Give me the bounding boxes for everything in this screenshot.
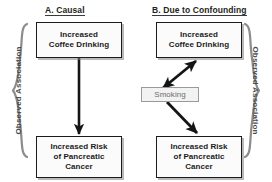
right-observed-association-label: Observed Association [251,36,260,146]
node-b-increased-risk-pancreatic-cancer: Increased Risk of Pancreatic Cancer [156,136,242,178]
node-label: Smoking [154,90,185,100]
node-a-increased-risk-pancreatic-cancer: Increased Risk of Pancreatic Cancer [36,136,122,178]
node-label: Increased Coffee Drinking [169,30,229,50]
left-observed-association-label: Observed Association [14,36,23,146]
node-label: Increased Risk of Pancreatic Cancer [50,142,107,172]
node-b-smoking-confounder: Smoking [141,87,199,102]
panel-b-title: B. Due to Confounding [152,5,247,16]
node-label: Increased Coffee Drinking [49,30,109,50]
panel-a-title: A. Causal [45,5,85,16]
node-b-increased-coffee-drinking: Increased Coffee Drinking [156,22,242,58]
node-label: Increased Risk of Pancreatic Cancer [170,142,227,172]
node-a-increased-coffee-drinking: Increased Coffee Drinking [36,22,122,58]
arrow-b-confounder-to-effect [167,102,197,133]
arrow-b-confounder-to-cause [163,61,196,88]
figure-canvas: A. Causal B. Due to Confounding Increase… [0,0,272,182]
